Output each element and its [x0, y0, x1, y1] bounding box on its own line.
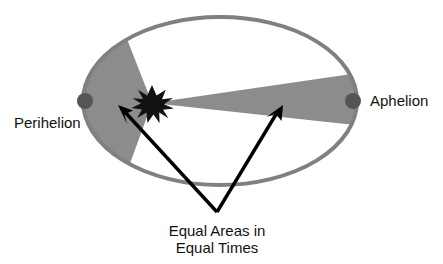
caption-line-2: Equal Times — [176, 239, 259, 256]
perihelion-label: Perihelion — [14, 114, 81, 131]
left-arrow-shaft — [124, 111, 217, 212]
aphelion-label: Aphelion — [370, 92, 428, 109]
right-arrow-shaft — [217, 111, 278, 212]
keplers-second-law-diagram: Perihelion Aphelion Equal Areas in Equal… — [0, 0, 443, 264]
aphelion-point-icon — [345, 93, 361, 109]
perihelion-point-icon — [77, 93, 93, 109]
caption-arrows — [124, 111, 278, 212]
diagram-canvas: Perihelion Aphelion Equal Areas in Equal… — [0, 0, 443, 264]
aphelion-sector-shape — [152, 71, 372, 127]
caption-line-1: Equal Areas in — [169, 222, 266, 239]
